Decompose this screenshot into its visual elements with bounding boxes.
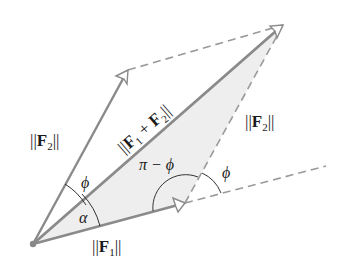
origin-dot — [30, 241, 36, 247]
label-angle-phi-origin: ϕ — [81, 174, 89, 192]
label-f2-right: ||F2|| — [245, 112, 275, 133]
arc-phi-exterior — [202, 173, 221, 193]
vector-diagram: ||F2|| ||F2|| ||F1|| ||F1 + F2|| ϕ α π −… — [0, 0, 345, 275]
dashed-line-f1-extension — [185, 166, 326, 203]
label-f1: ||F1|| — [92, 237, 122, 258]
label-angle-phi-exterior: ϕ — [222, 164, 230, 182]
diagram-svg: ||F2|| ||F2|| ||F1|| ||F1 + F2|| ϕ α π −… — [0, 0, 345, 275]
label-angle-alpha: α — [79, 209, 88, 226]
label-f2-left: ||F2|| — [30, 131, 60, 152]
label-angle-pi-minus-phi: π − ϕ — [139, 156, 174, 174]
